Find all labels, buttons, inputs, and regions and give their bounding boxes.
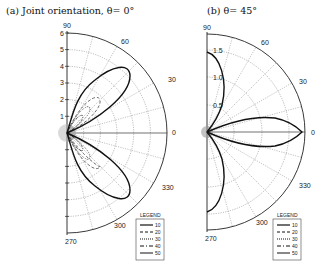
svg-text:30: 30 [292,236,298,242]
svg-text:1: 1 [60,113,64,120]
svg-text:30: 30 [155,236,161,242]
svg-text:3: 3 [60,79,64,86]
svg-text:270: 270 [65,238,77,245]
svg-text:30: 30 [168,76,176,83]
svg-text:300: 300 [256,219,268,226]
panel-a-legend: LEGEND 1020 3040 50 [136,212,164,260]
svg-text:5: 5 [60,46,64,53]
svg-text:300: 300 [114,222,126,229]
polar-charts: 12 34 56 90 60 30 0 330 300 270 LEGEND 1… [0,0,328,275]
svg-text:40: 40 [292,243,298,249]
svg-text:4: 4 [60,63,64,70]
panel-b-legend: LEGEND 1020 3040 50 [273,212,301,260]
svg-text:0: 0 [311,129,315,136]
svg-text:0.5: 0.5 [213,102,223,109]
svg-text:330: 330 [162,184,174,191]
svg-text:20: 20 [155,229,161,235]
svg-text:LEGEND: LEGEND [140,212,161,218]
svg-text:60: 60 [121,38,129,45]
svg-text:330: 330 [299,182,311,189]
svg-text:270: 270 [205,235,217,242]
svg-text:1.5: 1.5 [213,47,223,54]
svg-text:90: 90 [63,22,71,29]
svg-text:6: 6 [60,30,64,37]
svg-text:0: 0 [172,129,176,136]
svg-text:90: 90 [203,24,211,31]
svg-text:10: 10 [155,222,161,228]
svg-text:10: 10 [292,222,298,228]
panel-b-plot: 1.5 1.0 0.5 90 60 30 0 330 300 270 LEGEN… [201,24,315,260]
svg-text:20: 20 [292,229,298,235]
svg-text:50: 50 [155,250,161,256]
svg-text:40: 40 [155,243,161,249]
svg-text:1.0: 1.0 [213,74,223,81]
svg-text:30: 30 [299,78,307,85]
svg-text:60: 60 [261,39,269,46]
svg-text:2: 2 [60,96,64,103]
svg-text:LEGEND: LEGEND [277,212,298,218]
panel-a-plot: 12 34 56 90 60 30 0 330 300 270 LEGEND 1… [58,22,176,260]
svg-text:50: 50 [292,250,298,256]
